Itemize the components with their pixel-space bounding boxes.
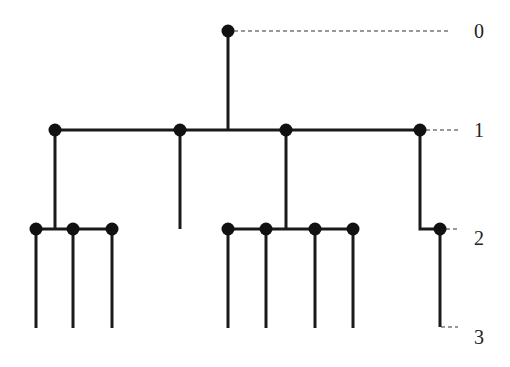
level-label-2: 2 xyxy=(474,227,484,249)
tree-diagram: 0123 xyxy=(0,0,510,367)
tree-node-l2-c2 xyxy=(260,223,273,236)
tree-edge xyxy=(420,130,440,229)
level-label-3: 3 xyxy=(474,326,484,348)
tree-node-l1-a xyxy=(49,124,62,137)
tree-node-l1-d xyxy=(414,124,427,137)
tree-node-l1-b xyxy=(174,124,187,137)
tree-node-l2-c1 xyxy=(222,223,235,236)
tree-node-l2-a1 xyxy=(30,223,43,236)
tree-node-root xyxy=(222,25,235,38)
level-label-0: 0 xyxy=(474,20,484,42)
tree-node-l1-c xyxy=(280,124,293,137)
tree-node-l2-d1 xyxy=(434,223,447,236)
tree-node-l2-a2 xyxy=(67,223,80,236)
level-guides xyxy=(234,31,458,327)
tree-edges xyxy=(36,31,440,328)
level-labels: 0123 xyxy=(474,20,484,348)
tree-node-l2-c3 xyxy=(309,223,322,236)
tree-node-l2-c4 xyxy=(347,223,360,236)
tree-node-l2-a3 xyxy=(106,223,119,236)
level-label-1: 1 xyxy=(474,119,484,141)
